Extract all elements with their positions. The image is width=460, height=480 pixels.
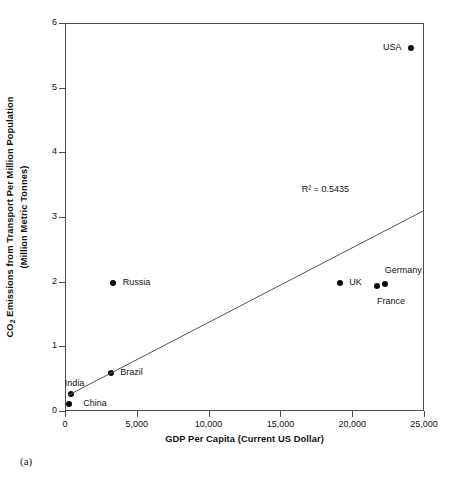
x-axis-tick: [65, 411, 66, 417]
y-axis-tick-label: 0: [17, 405, 57, 415]
y-axis-title-subscript: 2: [9, 319, 16, 323]
data-point-label: France: [377, 295, 405, 305]
y-axis-tick-label: 1: [17, 340, 57, 350]
y-axis-tick-label: 3: [17, 211, 57, 221]
x-axis-tick-label: 0: [30, 419, 100, 429]
y-axis-tick-label: 5: [17, 81, 57, 91]
data-point-label: USA: [383, 41, 402, 51]
data-point: [382, 281, 388, 287]
x-axis-tick-label: 5,000: [102, 419, 172, 429]
x-axis-tick-label: 10,000: [174, 419, 244, 429]
x-axis-tick-label: 15,000: [245, 419, 315, 429]
y-axis-tick-label: 2: [17, 275, 57, 285]
y-axis-title-prefix: CO: [5, 323, 15, 337]
data-point-label: Germany: [385, 264, 422, 274]
r-squared-annotation: R² = 0.5435: [302, 184, 349, 194]
y-axis-title-line1: Emissions from Transport Per Million Pop…: [5, 97, 15, 320]
plot-area: ChinaIndiaBrazilRussiaUKFranceGermanyUSA: [65, 23, 424, 411]
data-point-label: Russia: [123, 276, 151, 286]
data-point-label: China: [83, 397, 107, 407]
x-axis-tick: [209, 411, 210, 417]
data-point: [374, 283, 380, 289]
x-axis-tick-label: 20,000: [317, 419, 387, 429]
x-axis-tick-label: 25,000: [389, 419, 459, 429]
x-axis-title: GDP Per Capita (Current US Dollar): [65, 434, 424, 444]
data-point: [66, 401, 72, 407]
data-point: [408, 45, 414, 51]
x-axis-tick: [424, 411, 425, 417]
data-point: [337, 280, 343, 286]
x-axis-tick: [137, 411, 138, 417]
figure-caption: (a): [20, 455, 32, 467]
x-axis-tick: [280, 411, 281, 417]
x-axis-tick: [352, 411, 353, 417]
data-point-label: Brazil: [120, 367, 143, 377]
data-point-label: India: [65, 377, 85, 387]
y-axis-tick-label: 4: [17, 146, 57, 156]
y-axis-tick-label: 6: [17, 17, 57, 27]
data-point: [110, 280, 116, 286]
data-point: [108, 370, 114, 376]
data-point: [68, 391, 74, 397]
scatter-chart-figure: CO2 Emissions from Transport Per Million…: [0, 0, 460, 480]
data-point-label: UK: [349, 276, 362, 286]
